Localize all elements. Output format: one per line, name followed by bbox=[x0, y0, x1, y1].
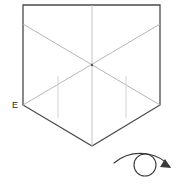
vertex-label-e: E bbox=[12, 100, 18, 110]
origami-diagram: E bbox=[0, 0, 176, 185]
origami-figure-svg: E bbox=[0, 0, 176, 185]
turn-over-circle bbox=[134, 154, 156, 176]
turn-over-arrow-head bbox=[160, 159, 171, 168]
crease-intersection-dot bbox=[91, 64, 93, 66]
